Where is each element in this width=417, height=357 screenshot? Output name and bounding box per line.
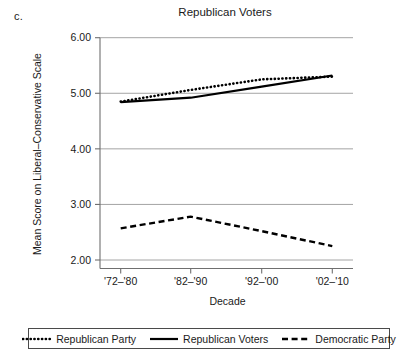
legend-label: Republican Party — [56, 333, 136, 345]
legend-swatch-dashed-icon — [281, 334, 311, 344]
legend-label: Republican Voters — [183, 333, 268, 345]
series-line-democratic-party — [121, 217, 333, 246]
x-tick-marks — [121, 269, 333, 274]
x-tick-label: '82–'90 — [174, 275, 207, 287]
x-tick-labels: '72–'80'82–'90'92–'00'02–'10 — [104, 275, 349, 287]
y-tick-label: 4.00 — [71, 143, 92, 155]
y-tick-labels: 2.003.004.005.006.00 — [71, 31, 92, 265]
y-tick-label: 2.00 — [71, 254, 92, 266]
figure: c. Republican Voters Mean Score on Liber… — [0, 0, 417, 357]
legend-entry-republican-party: Republican Party — [22, 333, 136, 345]
legend-swatch-dotted-icon — [22, 334, 52, 344]
legend: Republican PartyRepublican VotersDemocra… — [28, 328, 390, 349]
y-tick-label: 6.00 — [71, 31, 92, 43]
series-line-republican-voters — [121, 75, 333, 102]
y-tick-label: 5.00 — [71, 87, 92, 99]
plot-area: 2.003.004.005.006.00 '72–'80'82–'90'92–'… — [0, 0, 417, 357]
legend-entry-republican-voters: Republican Voters — [149, 333, 268, 345]
axis-lines — [100, 38, 353, 269]
legend-swatch-solid-icon — [149, 334, 179, 344]
x-tick-label: '02–'10 — [316, 275, 349, 287]
data-series — [121, 75, 333, 246]
x-tick-label: '92–'00 — [245, 275, 278, 287]
legend-entry-democratic-party: Democratic Party — [281, 333, 396, 345]
legend-label: Democratic Party — [315, 333, 396, 345]
y-tick-label: 3.00 — [71, 198, 92, 210]
x-tick-label: '72–'80 — [104, 275, 137, 287]
